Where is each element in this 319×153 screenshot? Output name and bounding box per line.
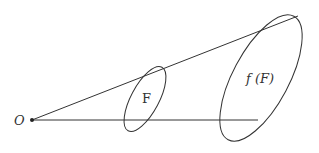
origin-point xyxy=(30,118,34,122)
homothety-diagram: O F f (F) xyxy=(0,0,319,153)
upper-ray xyxy=(32,16,298,120)
image-label: f (F) xyxy=(245,71,274,86)
set-label: F xyxy=(142,91,151,106)
origin-label: O xyxy=(14,113,25,128)
